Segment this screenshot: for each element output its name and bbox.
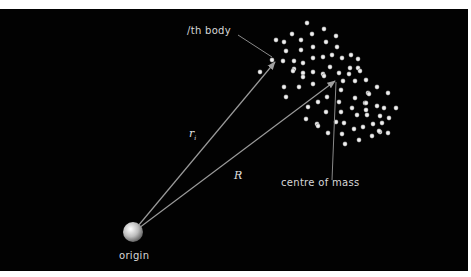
particle [337,71,342,76]
particle [281,59,286,64]
particle [340,56,345,61]
centre-of-mass-leader-line [332,82,336,180]
particle [357,138,362,143]
particle [290,32,295,37]
diagram-canvas: /th body centre of mass origin ri R [0,9,468,271]
particle [339,88,344,93]
particle [350,106,355,111]
particle [324,110,329,115]
particle [342,121,347,126]
particle [352,127,357,132]
particle [282,40,287,45]
particle [382,106,387,111]
particle [322,27,327,32]
particle [337,100,342,105]
origin-label: origin [119,250,149,261]
particle-cluster [258,21,399,147]
particle [258,70,263,75]
particle [330,53,335,58]
particle [370,134,375,139]
particle [310,32,315,37]
particle [340,132,345,137]
particle [297,85,302,90]
particle [339,110,344,115]
particle [375,104,380,109]
particle [371,122,376,127]
particle [301,75,306,80]
particle [341,79,346,84]
ith-body-label: /th body [187,25,231,36]
particle [334,34,339,39]
particle [282,85,287,90]
particle [364,101,369,106]
particle [324,40,329,45]
particle [364,78,369,83]
particle [270,58,275,63]
particle [299,48,304,53]
particle [335,45,340,50]
centre-of-mass-label: centre of mass [281,177,359,188]
particle [358,69,363,74]
R-vector [139,81,335,228]
particle [375,85,380,90]
particle [305,21,310,26]
particle [311,56,316,61]
particle [328,65,333,70]
particle [378,114,383,119]
particle [311,70,316,75]
particle [353,79,358,84]
centre-of-mass-diagram: /th body centre of mass origin ri R [0,9,468,271]
particle [356,57,361,62]
r-i-vector [138,62,275,226]
ith-body-leader-line [238,35,272,57]
origin-sphere [123,222,143,242]
particle [292,59,297,64]
particle [316,100,321,105]
particle [367,92,372,97]
particle [364,108,369,113]
particle [306,105,311,110]
particle [361,125,366,130]
particle [365,113,370,118]
particle [284,49,289,54]
particle [343,142,348,147]
particle [311,45,316,50]
particle [387,116,392,121]
particle [311,82,316,87]
particle [304,117,309,122]
particle [347,72,352,77]
R-label: R [233,169,242,182]
particle [321,55,326,60]
particle [380,121,385,126]
particle [377,129,382,134]
particle [284,95,289,100]
particle [348,66,353,71]
particle [326,131,331,136]
particle [322,74,327,79]
particle [299,38,304,43]
particle [353,96,358,101]
particle [291,69,296,74]
r-i-subscript: i [194,134,196,141]
particle [325,95,330,100]
particle [274,38,279,43]
particle [386,131,391,136]
particle [301,61,306,66]
particle [349,53,354,58]
particle [386,91,391,96]
particle [316,124,321,129]
r-i-label: ri [189,127,196,141]
particle [394,106,399,111]
particle [355,113,360,118]
